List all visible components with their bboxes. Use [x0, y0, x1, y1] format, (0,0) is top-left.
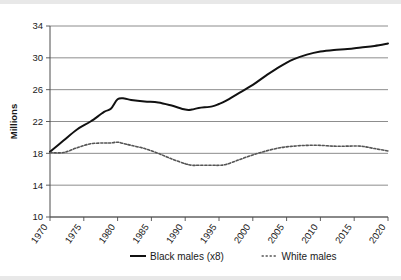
x-tick-label: 1990	[164, 222, 185, 246]
x-tick-label: 1985	[130, 222, 151, 246]
y-tick-label: 10	[32, 211, 43, 222]
y-axis-title: Millions	[8, 104, 19, 139]
y-tick-label: 26	[32, 84, 43, 95]
x-axis-tick-group: 1970197519801985199019952000200520102015…	[29, 217, 388, 245]
gridline-group	[50, 26, 388, 217]
x-tick-label: 2000	[231, 222, 252, 246]
series-line-0	[50, 44, 388, 152]
bottom-edge-band	[0, 276, 401, 280]
x-tick-label: 2020	[367, 222, 388, 246]
data-series-group	[50, 44, 388, 166]
y-axis-tick-group: 10141822263034	[32, 20, 50, 222]
top-edge-band	[0, 0, 401, 4]
x-tick-label: 1980	[96, 222, 117, 246]
x-tick-label: 2010	[299, 222, 320, 246]
y-tick-label: 34	[32, 20, 43, 31]
x-tick-label: 2015	[333, 222, 354, 246]
y-tick-label: 30	[32, 52, 43, 63]
legend-label: Black males (x8)	[150, 251, 224, 262]
chart-figure: 10141822263034 1970197519801985199019952…	[0, 0, 401, 280]
x-tick-label: 1995	[198, 222, 219, 246]
x-tick-label: 1970	[29, 222, 50, 246]
chart-legend: Black males (x8)White males	[130, 251, 337, 262]
y-tick-label: 14	[32, 180, 43, 191]
line-chart: 10141822263034 1970197519801985199019952…	[0, 0, 401, 280]
x-tick-label: 2005	[265, 222, 286, 246]
y-tick-label: 18	[32, 148, 43, 159]
x-tick-label: 1975	[62, 222, 83, 246]
y-tick-label: 22	[32, 116, 43, 127]
legend-label: White males	[282, 251, 337, 262]
